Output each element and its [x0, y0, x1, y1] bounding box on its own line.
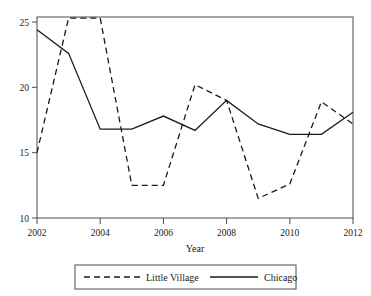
y-tick-label-10: 10 — [20, 214, 30, 224]
y-tick-label-25: 25 — [20, 18, 30, 28]
y-tick-label-20: 20 — [20, 83, 30, 93]
x-tick-label-2004: 2004 — [91, 228, 110, 238]
x-tick-label-2006: 2006 — [154, 228, 173, 238]
x-tick-label-2002: 2002 — [28, 228, 47, 238]
legend-label-little-village: Little Village — [146, 272, 199, 283]
chart-container: 25 20 15 10 2002 2004 2006 2008 2010 201… — [0, 0, 371, 296]
line-chart: 25 20 15 10 2002 2004 2006 2008 2010 201… — [0, 0, 371, 296]
x-tick-label-2008: 2008 — [217, 228, 236, 238]
x-tick-label-2012: 2012 — [344, 228, 363, 238]
y-tick-label-15: 15 — [20, 148, 30, 158]
x-axis: 2002 2004 2006 2008 2010 2012 — [28, 218, 363, 238]
x-axis-title: Year — [186, 243, 205, 254]
x-tick-label-2010: 2010 — [280, 228, 299, 238]
plot-frame — [37, 17, 353, 218]
legend-label-chicago: Chicago — [264, 272, 297, 283]
y-axis: 25 20 15 10 — [20, 18, 38, 224]
chart-legend: Little Village Chicago — [75, 265, 297, 289]
